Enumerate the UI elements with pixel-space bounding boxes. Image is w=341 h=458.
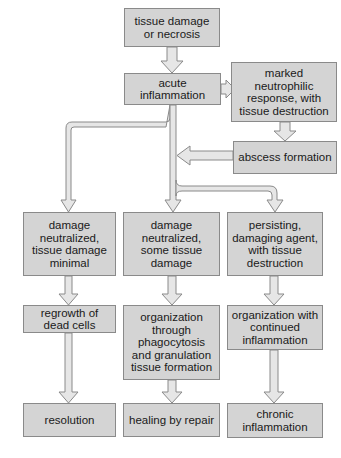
node-abscess-formation: abscess formation: [233, 141, 337, 174]
arrow-abscess-to-trunk: [177, 146, 233, 165]
arrow-neutrophilic-to-abscess: [274, 122, 296, 141]
arrow-persisting-to-organization-continued: [264, 276, 284, 305]
node-some-tissue-damage: damage neutralized, some tissue damage: [123, 212, 220, 276]
arrow-regrowth-to-resolution: [59, 333, 78, 403]
node-organization-continued: organization with continued inflammation: [227, 305, 323, 350]
arrow-acute-to-persisting: [176, 180, 283, 212]
node-organization-phagocytosis: organization through phagocytosis and gr…: [123, 305, 220, 380]
node-neutrophilic-response: marked neutrophilic response, with tissu…: [231, 62, 337, 122]
arrow-acute-to-minimal: [61, 105, 170, 212]
node-persisting-agent: persisting, damaging agent, with tissue …: [227, 212, 323, 276]
node-resolution: resolution: [23, 403, 116, 437]
node-healing-by-repair: healing by repair: [123, 403, 220, 437]
arrow-start-to-acute: [161, 47, 183, 73]
arrow-organization-to-healing: [162, 380, 182, 403]
node-tissue-damage: tissue damage or necrosis: [124, 8, 220, 47]
arrow-minimal-to-regrowth: [59, 276, 78, 305]
node-damage-minimal: damage neutralized, tissue damage minima…: [23, 212, 116, 276]
node-acute-inflammation: acute inflammation: [124, 73, 221, 105]
node-chronic-inflammation: chronic inflammation: [227, 403, 323, 438]
node-regrowth: regrowth of dead cells: [23, 305, 116, 333]
arrow-some-damage-to-organization: [162, 276, 182, 305]
arrow-organization-continued-to-chronic: [264, 350, 284, 403]
